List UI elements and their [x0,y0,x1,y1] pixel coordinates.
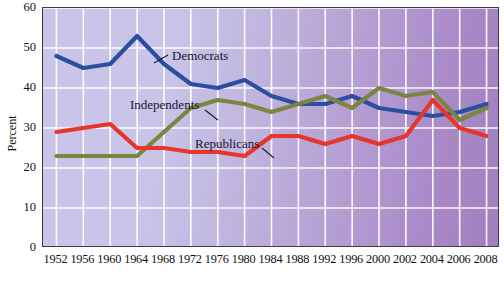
y-axis-title: Percent [5,104,20,164]
series-annotation-democrats: Democrats [172,48,228,64]
x-tick-1968: 1968 [151,252,175,267]
series-annotation-republicans: Republicans [195,136,259,152]
y-tick-40: 40 [0,80,36,95]
x-tick-2004: 2004 [420,252,444,267]
x-tick-1964: 1964 [124,252,148,267]
x-tick-2006: 2006 [447,252,471,267]
x-tick-1980: 1980 [232,252,256,267]
x-tick-1960: 1960 [97,252,121,267]
chart-canvas [43,8,499,247]
y-tick-10: 10 [0,200,36,215]
x-tick-1976: 1976 [205,252,229,267]
plot-area [42,7,499,247]
y-tick-50: 50 [0,40,36,55]
x-tick-2008: 2008 [474,252,498,267]
x-tick-1984: 1984 [259,252,283,267]
y-tick-0: 0 [0,240,36,255]
x-tick-1988: 1988 [285,252,309,267]
x-tick-1992: 1992 [312,252,336,267]
x-tick-2000: 2000 [366,252,390,267]
party-identification-line-chart: Percent 6050403020100 195219561960196419… [0,0,504,283]
x-tick-1956: 1956 [70,252,94,267]
x-tick-1972: 1972 [178,252,202,267]
x-axis-tick-labels: 1952195619601964196819721976198019841988… [42,252,499,274]
y-tick-60: 60 [0,0,36,15]
x-tick-1952: 1952 [44,252,68,267]
x-tick-2002: 2002 [393,252,417,267]
series-annotation-independents: Independents [130,97,199,113]
x-tick-1996: 1996 [339,252,363,267]
